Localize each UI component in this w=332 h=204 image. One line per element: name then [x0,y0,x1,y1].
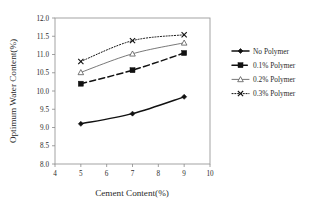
y-tick-label: 8.5 [40,142,49,150]
y-tick-label: 10.5 [36,69,49,77]
x-tick-label: 7 [131,170,135,178]
x-tick-label: 10 [206,170,214,178]
line-chart-svg: 8.08.59.09.510.010.511.011.512.0 4567891… [0,0,332,204]
y-tick-label: 12.0 [36,15,49,23]
y-tick-label: 9.0 [40,124,49,132]
chart-figure: 8.08.59.09.510.010.511.011.512.0 4567891… [0,0,332,204]
data-point-marker [182,51,187,56]
y-axis-title: Optimum Water Content(%) [8,39,18,143]
x-tick-label: 8 [157,170,161,178]
x-tick-label: 9 [182,170,186,178]
legend-item-label: 0.3% Polymer [253,89,296,98]
x-tick-label: 5 [79,170,83,178]
data-point-marker [78,81,83,86]
legend-item-label: No Polymer [253,47,289,56]
x-tick-label: 4 [53,170,57,178]
y-tick-label: 11.5 [37,33,50,41]
y-tick-label: 8.0 [40,161,49,169]
data-point-marker [238,63,243,68]
x-tick-label: 6 [105,170,109,178]
y-tick-label: 9.5 [40,106,49,114]
y-tick-label: 10.0 [36,88,49,96]
data-point-marker [130,68,135,73]
y-tick-label: 11.0 [37,51,50,59]
legend-item-label: 0.1% Polymer [253,61,296,70]
legend-item-label: 0.2% Polymer [253,75,296,84]
x-axis-title: Cement Content(%) [95,188,169,198]
